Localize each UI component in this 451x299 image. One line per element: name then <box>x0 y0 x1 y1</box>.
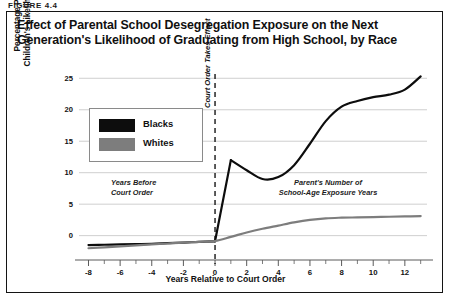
chart-canvas <box>7 12 444 291</box>
annotation-exposure-years: Parent's Number of School-Age Exposure Y… <box>263 178 393 197</box>
x-axis-tick-label: 12 <box>394 268 416 277</box>
annotation-years-before: Years Before Court Order <box>111 178 156 197</box>
annotation-years-before-line2: Court Order <box>111 188 156 198</box>
x-axis-tick-label: -4 <box>141 268 163 277</box>
annotation-exposure-years-line1: Parent's Number of <box>263 178 393 188</box>
annotation-court-order-takes-effect: Court Order Takes Effect <box>203 0 212 108</box>
y-axis-tick-label: 10 <box>51 168 73 177</box>
x-axis-tick-label: 8 <box>331 268 353 277</box>
legend-label-whites: Whites <box>143 137 174 148</box>
x-axis-tick-label: -8 <box>77 268 99 277</box>
legend-swatch-blacks <box>99 119 135 132</box>
x-axis-tick-label: 0 <box>204 268 226 277</box>
series-line-blacks <box>231 76 421 179</box>
legend-label-blacks: Blacks <box>143 118 173 129</box>
y-axis-tick-label: 0 <box>51 231 73 240</box>
x-axis-tick-label: 2 <box>236 268 258 277</box>
y-axis-tick-label: 20 <box>51 105 73 114</box>
y-axis-tick-label: 15 <box>51 137 73 146</box>
plot-area: Percentage Point Change in Children's Li… <box>7 12 444 291</box>
x-axis-tick-label: 4 <box>267 268 289 277</box>
chart-legend: Blacks Whites <box>89 108 203 162</box>
annotation-exposure-years-line2: School-Age Exposure Years <box>263 188 393 198</box>
legend-swatch-whites <box>99 138 135 151</box>
x-axis-tick-label: 6 <box>299 268 321 277</box>
x-axis-tick-label: -2 <box>172 268 194 277</box>
x-axis-tick-label: -6 <box>109 268 131 277</box>
annotation-years-before-line1: Years Before <box>111 178 156 188</box>
y-axis-tick-label: 25 <box>51 74 73 83</box>
figure-container: Effect of Parental School Desegregation … <box>6 11 443 293</box>
y-axis-tick-label: 5 <box>51 200 73 209</box>
x-axis-tick-label: 10 <box>362 268 384 277</box>
